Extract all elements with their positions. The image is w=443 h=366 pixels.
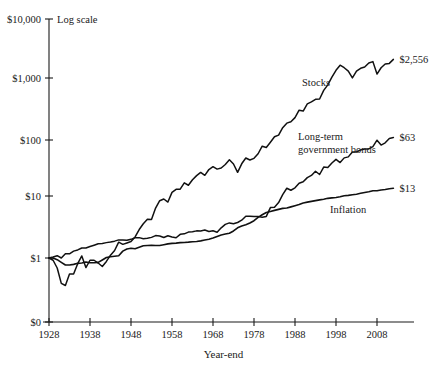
x-axis-title: Year-end: [204, 348, 244, 360]
y-axis-tick-label: $1,000: [12, 73, 41, 84]
series-line-long-term-government-bonds: [49, 138, 393, 258]
x-axis-tick-label: 1988: [285, 329, 306, 340]
investment-growth-chart: $0$1$10$100$1,000$10,000 192819381948195…: [0, 0, 443, 366]
end-value-label-long-term-government-bonds: $63: [399, 132, 415, 143]
x-axis: 192819381948195819681978198819982008Year…: [39, 318, 415, 360]
x-axis-tick-label: 1928: [39, 329, 60, 340]
series-line-stocks: [49, 59, 393, 285]
y-axis-tick-label: $0: [31, 317, 42, 328]
x-axis-tick-label: 2008: [367, 329, 388, 340]
chart-labels: Log scaleStocksLong-termgovernment bonds…: [57, 14, 428, 215]
series-line-inflation: [49, 188, 393, 265]
series-label-inflation: Inflation: [330, 204, 367, 215]
end-value-label-stocks: $2,556: [399, 54, 428, 65]
end-value-label-inflation: $13: [399, 183, 415, 194]
x-axis-tick-label: 1938: [80, 329, 101, 340]
chart-canvas: $0$1$10$100$1,000$10,000 192819381948195…: [0, 0, 443, 366]
y-axis: $0$1$10$100$1,000$10,000: [7, 14, 53, 328]
y-axis-tick-label: $10,000: [7, 14, 41, 25]
y-axis-tick-label: $1: [31, 253, 42, 264]
series-label-stocks: Stocks: [302, 77, 330, 88]
series-label-long-term-government-bonds: Long-termgovernment bonds: [298, 131, 376, 155]
x-axis-tick-label: 1978: [244, 329, 265, 340]
series-lines: [49, 59, 393, 285]
x-axis-tick-label: 1998: [326, 329, 347, 340]
y-axis-tick-label: $10: [25, 191, 41, 202]
log-scale-note: Log scale: [57, 14, 98, 25]
y-axis-tick-label: $100: [20, 135, 41, 146]
x-axis-tick-label: 1968: [203, 329, 224, 340]
x-axis-tick-label: 1948: [121, 329, 142, 340]
x-axis-tick-label: 1958: [162, 329, 183, 340]
